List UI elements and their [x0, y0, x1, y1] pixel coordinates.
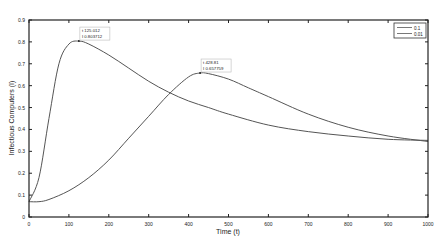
- x-tick-label: 900: [384, 221, 393, 227]
- x-tick-label: 400: [184, 221, 193, 227]
- x-tick-label: 700: [304, 221, 313, 227]
- line-chart: 00.10.20.30.40.50.60.70.80.9 01002003004…: [0, 0, 444, 240]
- y-tick-label: 0.6: [18, 83, 25, 89]
- legend: 0.1 0.01: [394, 23, 426, 38]
- x-tick-label: 100: [65, 221, 74, 227]
- plot-frame: [29, 20, 428, 217]
- y-tick-label: 0.8: [18, 39, 25, 45]
- svg-text:t 428.81: t 428.81: [203, 60, 219, 65]
- y-tick-label: 0.9: [18, 17, 25, 23]
- y-tick-label: 0.2: [18, 170, 25, 176]
- svg-text:I 0.803712: I 0.803712: [82, 34, 103, 39]
- x-tick-label: 500: [224, 221, 233, 227]
- y-tick-label: 0.5: [18, 105, 25, 111]
- x-tick-label: 600: [264, 221, 273, 227]
- y-tick-label: 0.7: [18, 61, 25, 67]
- x-tick-label: 800: [344, 221, 353, 227]
- svg-text:I 0.657759: I 0.657759: [203, 66, 224, 71]
- legend-label-0.1: 0.1: [414, 26, 421, 31]
- y-tick-label: 0.1: [18, 192, 25, 198]
- series-line-0.01: [29, 73, 428, 202]
- y-tick-label: 0: [22, 214, 25, 220]
- legend-label-0.01: 0.01: [414, 32, 423, 37]
- x-tick-label: 0: [28, 221, 31, 227]
- x-tick-label: 200: [105, 221, 114, 227]
- y-tick-label: 0.4: [18, 126, 25, 132]
- y-axis-ticks: 00.10.20.30.40.50.60.70.80.9: [18, 17, 428, 220]
- x-axis-label: Time (t): [216, 228, 240, 236]
- x-tick-label: 1000: [422, 221, 433, 227]
- y-axis-label: Infectious Computers (I): [8, 81, 16, 156]
- y-tick-label: 0.3: [18, 148, 25, 154]
- x-tick-label: 300: [145, 221, 154, 227]
- svg-text:t 125.012: t 125.012: [82, 28, 101, 33]
- x-axis-ticks: 01002003004005006007008009001000: [28, 20, 434, 227]
